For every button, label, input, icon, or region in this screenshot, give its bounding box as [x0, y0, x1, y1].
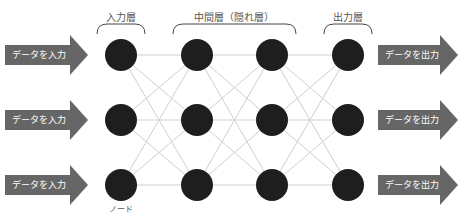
node-circle — [181, 169, 213, 201]
output-arrow-label: データを出力 — [385, 175, 439, 195]
output-arrow-label: データを出力 — [385, 110, 439, 130]
connections — [121, 55, 348, 185]
node-circle — [105, 169, 137, 201]
node-circle — [332, 104, 364, 136]
input-arrow-label: データを入力 — [12, 45, 66, 65]
layer-brackets — [97, 24, 372, 34]
output-arrow-label: データを出力 — [385, 45, 439, 65]
node-circle — [105, 39, 137, 71]
hidden-layer-bracket — [173, 24, 296, 34]
node-circle — [256, 39, 288, 71]
node-caption: ノード — [109, 203, 133, 214]
node-circle — [105, 104, 137, 136]
input-layer-bracket — [97, 24, 145, 34]
node-circle — [332, 39, 364, 71]
node-circle — [181, 39, 213, 71]
node-circle — [256, 104, 288, 136]
output-layer-bracket — [324, 24, 372, 34]
input-arrow-label: データを入力 — [12, 110, 66, 130]
input-layer-label: 入力層 — [106, 9, 136, 24]
node-circle — [332, 169, 364, 201]
hidden-layer-label: 中間層（隠れ層） — [194, 9, 274, 24]
input-arrow-label: データを入力 — [12, 175, 66, 195]
output-layer-label: 出力層 — [333, 9, 363, 24]
node-circle — [181, 104, 213, 136]
node-circle — [256, 169, 288, 201]
